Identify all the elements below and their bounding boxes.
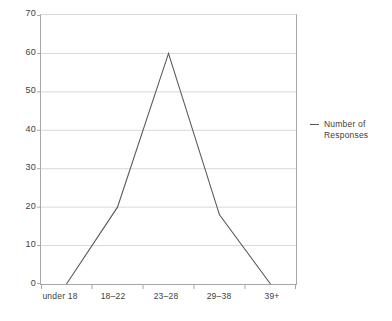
- y-axis-tick-label: 70: [6, 9, 36, 18]
- series-number-of-responses: [41, 15, 296, 284]
- x-axis-tick-label: 39+: [237, 291, 307, 301]
- y-axis-tick-label: 0: [6, 279, 36, 288]
- line-chart: 70 60 50 40 30 20 10 0: [0, 0, 392, 321]
- y-axis-tick-label: 50: [6, 86, 36, 95]
- y-axis-tick-label: 30: [6, 163, 36, 172]
- y-axis-tick-label: 60: [6, 48, 36, 57]
- y-axis-tick-label: 20: [6, 202, 36, 211]
- legend-line-marker-icon: [310, 124, 319, 125]
- legend: Number of Responses: [310, 119, 382, 141]
- legend-item-label: Number of Responses: [324, 119, 382, 141]
- y-axis-tick-label: 10: [6, 240, 36, 249]
- plot-area: [40, 14, 297, 285]
- y-axis-tick-label: 40: [6, 125, 36, 134]
